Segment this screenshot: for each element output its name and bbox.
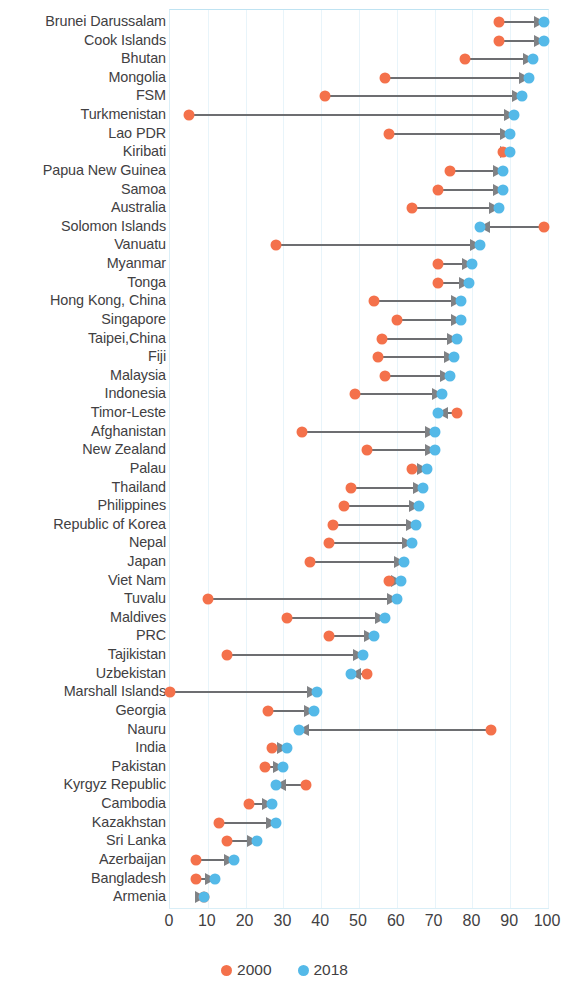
y-axis-label: Myanmar [0, 256, 166, 270]
legend-dot-icon [221, 965, 232, 976]
change-connector-line [208, 598, 395, 600]
change-connector-line [310, 561, 403, 563]
data-point-2000 [263, 705, 274, 716]
data-point-2018 [429, 445, 440, 456]
gridline-50 [359, 10, 360, 908]
x-tick-label: 10 [198, 912, 216, 930]
y-axis-label: Tonga [0, 274, 166, 288]
y-axis-label: Bhutan [0, 51, 166, 65]
data-point-2018 [414, 501, 425, 512]
data-point-2000 [361, 445, 372, 456]
x-tick-label: 30 [273, 912, 291, 930]
change-connector-line [329, 542, 410, 544]
data-point-2018 [380, 612, 391, 623]
change-connector-line [367, 449, 433, 451]
data-point-2000 [191, 873, 202, 884]
y-axis-label: Mongolia [0, 70, 166, 84]
data-point-2000 [493, 35, 504, 46]
y-axis-label: Vanuatu [0, 237, 166, 251]
legend-label: 2000 [237, 962, 271, 978]
data-point-2018 [199, 892, 210, 903]
y-axis-label: Afghanistan [0, 423, 166, 437]
data-point-2000 [433, 259, 444, 270]
change-connector-line [189, 114, 512, 116]
data-point-2018 [429, 426, 440, 437]
data-point-2018 [422, 463, 433, 474]
data-point-2018 [456, 314, 467, 325]
gridline-30 [283, 10, 284, 908]
change-connector-line [382, 338, 456, 340]
data-point-2018 [474, 240, 485, 251]
data-point-2000 [391, 314, 402, 325]
data-point-2000 [327, 519, 338, 530]
y-axis-label: Kiribati [0, 144, 166, 158]
data-point-2018 [406, 538, 417, 549]
data-point-2018 [251, 836, 262, 847]
data-point-2018 [456, 296, 467, 307]
data-point-2018 [505, 128, 516, 139]
plot-area [169, 9, 549, 909]
data-point-2000 [493, 17, 504, 28]
change-connector-line [465, 58, 531, 60]
data-point-2000 [346, 482, 357, 493]
data-point-2000 [259, 761, 270, 772]
data-point-2000 [406, 463, 417, 474]
data-point-2000 [244, 799, 255, 810]
gridline-10 [208, 10, 209, 908]
data-point-2018 [346, 668, 357, 679]
data-point-2018 [278, 761, 289, 772]
data-point-2000 [202, 594, 213, 605]
data-point-2018 [433, 408, 444, 419]
change-connector-line [397, 319, 459, 321]
data-point-2018 [369, 631, 380, 642]
y-axis-label: Samoa [0, 181, 166, 195]
y-axis-label: Uzbekistan [0, 665, 166, 679]
gridline-100 [548, 10, 549, 908]
x-tick-label: 50 [349, 912, 367, 930]
data-point-2018 [270, 817, 281, 828]
data-point-2000 [444, 165, 455, 176]
data-point-2000 [270, 240, 281, 251]
data-point-2018 [444, 370, 455, 381]
change-connector-line [385, 375, 447, 377]
data-point-2018 [312, 687, 323, 698]
data-point-2018 [399, 556, 410, 567]
data-point-2000 [323, 631, 334, 642]
data-point-2000 [452, 408, 463, 419]
data-point-2000 [221, 650, 232, 661]
y-axis-label: Japan [0, 554, 166, 568]
data-point-2000 [539, 221, 550, 232]
data-point-2018 [308, 705, 319, 716]
change-connector-line [385, 77, 527, 79]
data-point-2018 [282, 743, 293, 754]
data-point-2018 [493, 203, 504, 214]
x-axis: 0102030405060708090100 [169, 912, 547, 936]
change-connector-line [351, 487, 421, 489]
data-point-2018 [418, 482, 429, 493]
data-point-2000 [384, 128, 395, 139]
y-axis-label: Cook Islands [0, 32, 166, 46]
change-connector-line [412, 207, 497, 209]
x-tick-label: 20 [236, 912, 254, 930]
y-axis-label: Bangladesh [0, 870, 166, 884]
data-point-2000 [406, 203, 417, 214]
data-point-2018 [527, 54, 538, 65]
x-tick-label: 70 [425, 912, 443, 930]
y-axis-label: Taipei,China [0, 330, 166, 344]
y-axis-label: FSM [0, 88, 166, 102]
y-axis-label: India [0, 740, 166, 754]
y-axis-label: Viet Nam [0, 572, 166, 586]
data-point-2018 [463, 277, 474, 288]
y-axis-label: Malaysia [0, 368, 166, 382]
data-point-2000 [214, 817, 225, 828]
data-point-2000 [459, 54, 470, 65]
plot-wrapper: Brunei DarussalamCook IslandsBhutanMongo… [0, 0, 569, 930]
y-axis-label: Sri Lanka [0, 833, 166, 847]
data-point-2000 [165, 687, 176, 698]
change-connector-line [287, 617, 383, 619]
gridline-20 [246, 10, 247, 908]
y-axis-label: Azerbaijan [0, 852, 166, 866]
data-point-2018 [437, 389, 448, 400]
y-axis-label: Pakistan [0, 759, 166, 773]
x-tick-label: 0 [165, 912, 174, 930]
